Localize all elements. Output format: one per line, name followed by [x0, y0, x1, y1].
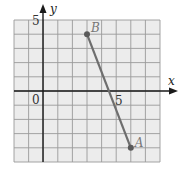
point-b: [84, 31, 90, 37]
point-b-label: B: [90, 21, 100, 35]
x-axis-label: x: [168, 74, 175, 88]
coordinate-plane: x y 5 0 5 B A: [0, 0, 185, 181]
x-axis-arrow-icon: [169, 88, 178, 95]
origin-label: 0: [32, 93, 40, 107]
y-axis-arrow-icon: [40, 4, 47, 13]
y-axis-label: y: [49, 2, 57, 16]
point-a: [128, 145, 134, 151]
y-tick-label-5: 5: [32, 14, 40, 28]
x-tick-label-5: 5: [115, 94, 123, 108]
point-a-label: A: [134, 136, 144, 150]
